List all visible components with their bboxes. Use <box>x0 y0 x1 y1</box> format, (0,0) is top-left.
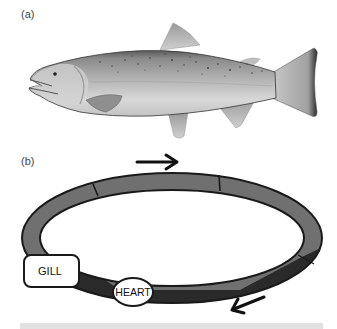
flow-arrow-top <box>137 155 177 169</box>
circulatory-loop <box>0 160 337 329</box>
tail-fin <box>272 48 317 117</box>
heart-node: HEART <box>113 278 153 306</box>
pelvic-fin <box>168 112 188 138</box>
flow-arrow-bottom <box>232 297 264 313</box>
segment-divider-2 <box>219 175 220 191</box>
salmon-illustration <box>29 23 317 138</box>
dorsal-fin <box>160 23 200 50</box>
gill-node: GILL <box>24 255 79 287</box>
gill-label: GILL <box>38 265 62 277</box>
fish-eye <box>53 72 57 76</box>
bottom-bar <box>20 323 323 329</box>
heart-label: HEART <box>115 286 151 298</box>
